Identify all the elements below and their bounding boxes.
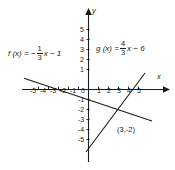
equation-f-prefix: f (x) = − — [8, 49, 36, 58]
equation-g-numerator: 4 — [120, 40, 126, 48]
x-tick-label: -3 — [50, 87, 56, 94]
function-line-g — [86, 73, 145, 152]
y-tick-label: -4 — [78, 126, 84, 133]
y-tick-label: -3 — [78, 116, 84, 123]
graph-figure: f (x) = −13x − 1 g (x) =43x − 6 y x -5 -… — [0, 0, 175, 170]
y-tick-label: 4 — [80, 36, 84, 43]
x-tick-label: -4 — [40, 87, 46, 94]
equation-label-f: f (x) = −13x − 1 — [8, 45, 61, 63]
x-tick-label: 4 — [127, 87, 131, 94]
equation-g-prefix: g (x) = — [96, 44, 119, 53]
equation-g-denominator: 3 — [120, 49, 126, 57]
y-tick-label: 5 — [80, 26, 84, 33]
y-tick-label: 1 — [80, 66, 84, 73]
equation-f-suffix: x − 1 — [44, 49, 62, 58]
x-tick-label: -2 — [60, 87, 66, 94]
y-tick-label: -5 — [78, 136, 84, 143]
x-tick-label: 2 — [107, 87, 111, 94]
equation-label-g: g (x) =43x − 6 — [96, 40, 145, 58]
equation-f-fraction: 13 — [37, 45, 43, 63]
x-tick-label-origin: 0 — [81, 87, 85, 94]
x-tick-label: 3 — [117, 87, 121, 94]
coordinate-plane-svg — [0, 0, 175, 170]
x-axis-label: x — [157, 72, 161, 81]
y-axis — [85, 8, 92, 162]
x-tick-label: -1 — [70, 87, 76, 94]
y-tick-label: 3 — [80, 46, 84, 53]
equation-g-suffix: x − 6 — [127, 44, 145, 53]
equation-f-denominator: 3 — [37, 54, 43, 62]
intersection-point-label: (3,-2) — [117, 126, 135, 134]
equation-f-numerator: 1 — [37, 45, 43, 53]
x-tick-label: 1 — [97, 87, 101, 94]
y-tick-label: -1 — [78, 96, 84, 103]
x-tick-label: -5 — [30, 87, 36, 94]
equation-g-fraction: 43 — [120, 40, 126, 58]
y-tick-label: -2 — [78, 106, 84, 113]
y-tick-label: 2 — [80, 56, 84, 63]
x-tick-label: 5 — [137, 87, 141, 94]
y-axis-label: y — [92, 6, 96, 15]
